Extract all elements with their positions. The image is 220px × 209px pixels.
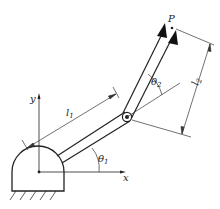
theta2-label: θ2	[151, 76, 162, 89]
link-1	[57, 112, 130, 163]
ground-hatching	[10, 191, 56, 200]
endpoint-p-label: P	[167, 13, 175, 24]
y-axis-label: y	[29, 93, 36, 104]
robot-arm-diagram: P l1 l2 θ1 θ2 y x	[0, 0, 220, 209]
base-dome	[12, 146, 64, 191]
arrowhead-icon	[157, 23, 167, 38]
arrowhead-icon	[168, 30, 178, 45]
base-origin-dot	[38, 171, 41, 174]
theta1-label: θ1	[98, 153, 109, 166]
link-2	[123, 32, 172, 119]
endpoint-p-dot	[171, 27, 174, 30]
y-axis-arrow-icon	[38, 93, 41, 99]
l2-label: l2	[189, 76, 204, 88]
l1-label: l1	[66, 107, 74, 120]
x-axis-label: x	[123, 172, 129, 183]
